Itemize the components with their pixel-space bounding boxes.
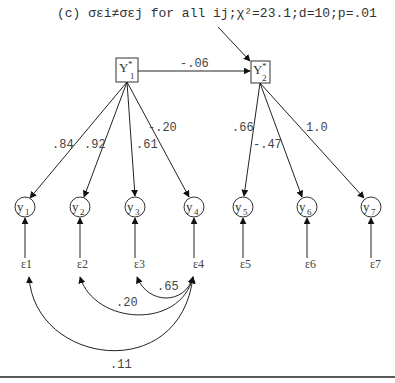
error-label-e4: ε4 [193, 257, 204, 271]
loading-coef-y3: .61 [136, 138, 158, 152]
error-label-e1: ε1 [21, 257, 32, 271]
latent-node-y2-star: Y * 2 [251, 61, 270, 83]
svg-text:1: 1 [25, 207, 30, 217]
observed-node-y5: y5 [233, 197, 253, 217]
svg-text:2: 2 [262, 73, 267, 83]
caption-pointer-arrow [218, 27, 250, 61]
error-label-e7: ε7 [370, 257, 381, 271]
error-corr-coef-e4-e3: .65 [157, 280, 179, 294]
observed-node-y1: y1 [15, 197, 35, 217]
svg-text:y: y [186, 199, 193, 214]
svg-text:y: y [363, 199, 370, 214]
observed-node-y7: y7 [361, 197, 381, 217]
svg-text:y: y [299, 199, 306, 214]
svg-text:y: y [127, 199, 134, 214]
observed-node-y4: y4 [184, 197, 204, 217]
loading-coef-y5: .66 [232, 121, 254, 135]
svg-text:5: 5 [243, 207, 248, 217]
svg-text:*: * [262, 61, 267, 71]
loading-arrow-y3 [127, 82, 135, 196]
svg-text:3: 3 [135, 207, 140, 217]
svg-text:y: y [235, 199, 242, 214]
observed-node-y3: y3 [125, 197, 145, 217]
error-label-e2: ε2 [77, 257, 88, 271]
svg-text:4: 4 [194, 207, 199, 217]
svg-text:1: 1 [130, 71, 135, 81]
svg-text:6: 6 [307, 207, 312, 217]
loading-coef-y1: .84 [52, 138, 74, 152]
error-corr-coef-e4-e2: .20 [116, 296, 138, 310]
loading-coef-y7: 1.0 [306, 121, 328, 135]
latent-node-y1-star: Y * 1 [116, 58, 138, 82]
structural-coef: -.06 [180, 57, 209, 71]
svg-text:*: * [128, 59, 133, 69]
loading-coef-y2: .92 [84, 138, 106, 152]
observed-node-y6: y6 [297, 197, 317, 217]
loading-arrow-y1 [30, 82, 127, 198]
loading-coef-y4: -.20 [148, 121, 177, 135]
path-diagram: Y * 1 Y * 2 -.06 .84 .92 .61 -.20 .66 -.… [0, 0, 395, 383]
svg-text:7: 7 [371, 207, 376, 217]
observed-node-y2: y2 [70, 197, 90, 217]
error-label-e6: ε6 [305, 257, 316, 271]
svg-text:2: 2 [80, 207, 85, 217]
error-corr-coef-e4-e1: .11 [110, 358, 132, 372]
loading-coef-y6: -.47 [253, 138, 282, 152]
svg-text:y: y [72, 199, 79, 214]
error-label-e3: ε3 [134, 257, 145, 271]
svg-text:y: y [17, 199, 24, 214]
error-label-e5: ε5 [240, 257, 251, 271]
